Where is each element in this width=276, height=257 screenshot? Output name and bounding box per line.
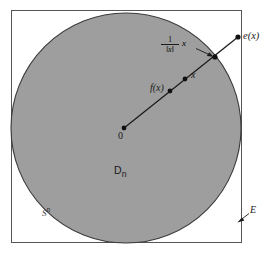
label-sphere-superscript: n bbox=[47, 205, 51, 214]
figure-container: e(x) x f(x) 0 Dn Sn E 1 ‖x‖ x bbox=[0, 0, 276, 257]
normalized-vector-multiplicand: x bbox=[182, 38, 186, 48]
space-E-arrow bbox=[237, 214, 249, 223]
label-unit-disk-base: D bbox=[114, 164, 122, 176]
label-unit-disk: Dn bbox=[114, 165, 127, 179]
label-sphere-boundary: Sn bbox=[42, 206, 50, 218]
boundary-intersection-point bbox=[212, 54, 217, 59]
label-x: x bbox=[191, 70, 195, 80]
f-of-x-point bbox=[168, 89, 173, 94]
label-origin: 0 bbox=[118, 131, 123, 141]
label-e-of-x: e(x) bbox=[243, 31, 259, 42]
label-f-of-x: f(x) bbox=[150, 83, 164, 93]
fraction-numerator: 1 bbox=[167, 36, 173, 44]
e-of-x-point bbox=[235, 34, 240, 39]
label-normalized-vector: 1 ‖x‖ x bbox=[161, 36, 186, 53]
label-unit-disk-subscript: n bbox=[122, 169, 127, 179]
normalized-vector-fraction: 1 ‖x‖ bbox=[161, 36, 179, 53]
fraction-denominator: ‖x‖ bbox=[165, 45, 175, 53]
label-space-E: E bbox=[250, 205, 256, 215]
x-point bbox=[183, 77, 188, 82]
diagram-canvas bbox=[0, 0, 276, 257]
